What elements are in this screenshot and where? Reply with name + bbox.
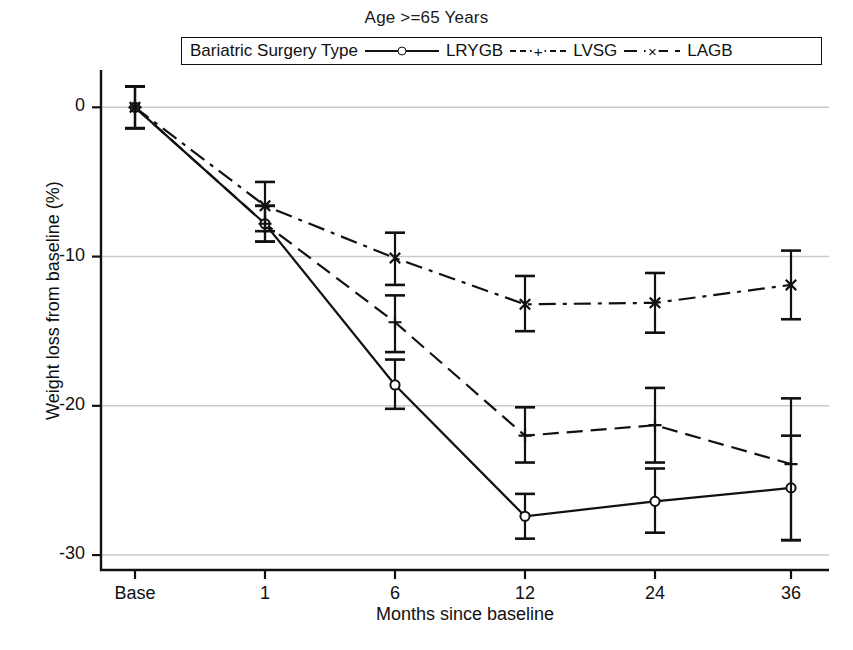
data-point-plus bbox=[649, 419, 662, 432]
y-axis-label: Weight loss from baseline (%) bbox=[43, 66, 64, 536]
data-point-plus bbox=[785, 458, 798, 471]
x-tick-label: 6 bbox=[350, 583, 440, 604]
data-point-circle bbox=[520, 512, 529, 521]
data-point-plus bbox=[519, 429, 532, 442]
x-tick-label: 1 bbox=[220, 583, 310, 604]
x-tick-label: Base bbox=[90, 583, 180, 604]
data-point-circle bbox=[390, 380, 399, 389]
x-axis-label: Months since baseline bbox=[101, 604, 829, 625]
x-tick-label: 36 bbox=[746, 583, 836, 604]
data-point-circle bbox=[650, 497, 659, 506]
y-tick-label: -20 bbox=[25, 394, 85, 415]
series-line-lvsg bbox=[135, 107, 791, 464]
figure-root: Age >=65 Years Bariatric Surgery Type LR… bbox=[0, 0, 853, 650]
y-tick-label: -30 bbox=[25, 543, 85, 564]
series-line-lrygb bbox=[135, 107, 791, 516]
y-tick-label: -10 bbox=[25, 245, 85, 266]
series-line-lagb bbox=[135, 107, 791, 304]
y-tick-label: 0 bbox=[25, 95, 85, 116]
x-tick-label: 24 bbox=[610, 583, 700, 604]
plot-area bbox=[0, 0, 853, 650]
x-tick-label: 12 bbox=[480, 583, 570, 604]
